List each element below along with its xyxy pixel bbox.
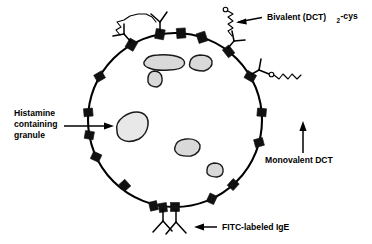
monovalent-label: Monovalent DCT <box>265 155 334 165</box>
monovalent-arrow-head <box>299 121 306 131</box>
receptor-7 <box>257 108 267 117</box>
bivalent-arrow-head <box>236 18 247 24</box>
granule-2 <box>190 55 213 71</box>
receptor-11 <box>176 28 186 39</box>
histamine-label-line2: containing <box>14 119 57 129</box>
ige-right <box>252 59 269 74</box>
histamine-label-line3: granule <box>14 130 45 140</box>
mast-cell-schematic: Bivalent (DCT) 2 -cys Histamine containi… <box>0 0 372 244</box>
granule-1 <box>144 55 185 70</box>
ige-top-right <box>151 12 167 31</box>
callout-fitc: FITC-labeled IgE <box>194 222 290 232</box>
hapten-terminal-circle <box>223 7 228 12</box>
callout-monovalent: Monovalent DCT <box>265 121 334 165</box>
receptor-15 <box>83 108 93 117</box>
receptor-16 <box>84 130 94 139</box>
granule-6 <box>207 163 223 177</box>
monovalent-bound <box>269 72 301 79</box>
ige-bottom-2 <box>166 210 186 234</box>
bivalent-label: Bivalent (DCT) <box>267 12 326 22</box>
granule-5 <box>175 139 200 156</box>
ige-top-left <box>113 24 131 42</box>
bivalent-label-main: Bivalent (DCT) <box>267 12 326 22</box>
receptor-3 <box>171 203 180 212</box>
ige-bottom-1 <box>153 210 172 232</box>
figure-canvas: Bivalent (DCT) 2 -cys Histamine containi… <box>0 0 372 244</box>
hapten-circle-monovalent <box>269 72 274 77</box>
callout-bivalent: Bivalent (DCT) 2 -cys <box>236 11 358 24</box>
granule-3 <box>148 71 162 87</box>
receptor-1 <box>149 201 159 212</box>
histamine-label-line1: Histamine <box>14 108 55 118</box>
bivalent-label-suffix: -cys <box>341 11 358 21</box>
fitc-arrow-head <box>194 223 204 230</box>
bivalent-crosslink <box>116 14 156 35</box>
fitc-label: FITC-labeled IgE <box>222 222 290 232</box>
